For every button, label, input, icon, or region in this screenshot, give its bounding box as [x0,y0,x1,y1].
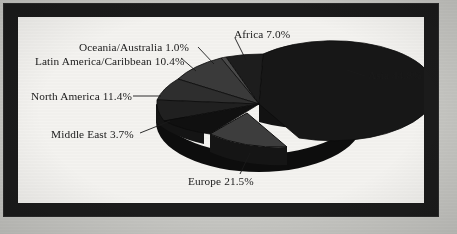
leader-line-oceania [198,47,214,64]
slice-label-middle-east: Middle East 3.7% [51,128,134,140]
slice-label-africa: Africa 7.0% [234,28,290,40]
slice-label-latin-america-caribbean: Latin America/Caribbean 10.4% [35,55,184,67]
slice-label-oceania-australia: Oceania/Australia 1.0% [79,41,189,53]
chart-canvas: Africa 7.0% Oceania/Australia 1.0% Latin… [18,17,424,203]
slice-label-europe: Europe 21.5% [188,175,254,187]
slice-label-asia: Asia 44.8% [368,69,422,81]
slice-label-north-america: North America 11.4% [31,90,132,102]
picture-frame: Africa 7.0% Oceania/Australia 1.0% Latin… [4,4,438,216]
